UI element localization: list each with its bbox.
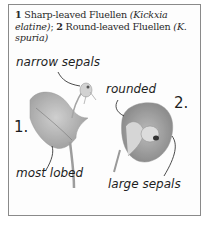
plant-2-label: 2.: [174, 94, 188, 112]
plant-1-label: 1.: [14, 118, 28, 136]
annotation-narrow-sepals: narrow sepals: [16, 55, 100, 69]
annotation-most-lobed: most lobed: [16, 166, 83, 180]
botanical-drawing: [0, 0, 210, 226]
annotation-large-sepals: large sepals: [108, 177, 181, 191]
narrow-sepals-pointer: [58, 72, 80, 86]
rounded-pointer: [116, 100, 124, 116]
annotation-rounded: rounded: [106, 82, 156, 96]
plant-2-drawing: [114, 103, 173, 172]
